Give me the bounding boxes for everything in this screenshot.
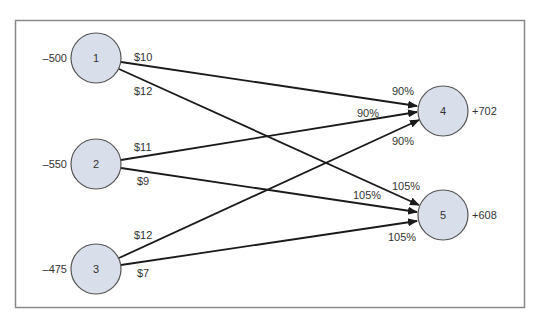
generalized-network-diagram: 1 2 3 4 5 –500 –550 –475 +702 +608 $10 $… [0,0,533,319]
cost-3-4: $12 [134,229,152,241]
node-5-label: 5 [440,209,446,221]
node-4-label: 4 [440,105,446,117]
gain-2-5: 105% [353,189,381,201]
cost-1-5: $12 [134,85,152,97]
node-1-label: 1 [93,52,99,64]
gain-1-5: 105% [392,180,420,192]
gain-3-4: 90% [392,135,414,147]
gain-1-4: 90% [392,85,414,97]
gain-3-5: 105% [388,231,416,243]
supply-2: –550 [43,158,67,170]
node-2: 2 [71,139,121,189]
supply-3: –475 [43,263,67,275]
node-1: 1 [71,33,121,83]
gain-2-4: 90% [357,107,379,119]
node-5: 5 [418,190,468,240]
supply-1: –500 [43,52,67,64]
cost-2-5: $9 [137,175,149,187]
demand-4: +702 [472,105,497,117]
node-3-label: 3 [93,263,99,275]
node-2-label: 2 [93,158,99,170]
cost-3-5: $7 [137,267,149,279]
cost-2-4: $11 [134,141,152,153]
cost-1-4: $10 [134,51,152,63]
demand-5: +608 [472,209,497,221]
node-4: 4 [418,86,468,136]
node-3: 3 [71,244,121,294]
